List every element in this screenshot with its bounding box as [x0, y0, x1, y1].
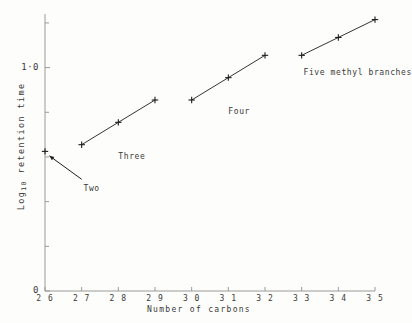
annotation-arrow-two	[49, 156, 81, 179]
x-tick-label-31: 3 1	[220, 294, 237, 303]
data-point-two-0	[42, 148, 48, 154]
data-point-three-1	[115, 119, 121, 125]
series-label-five-methyl-branches: Five methyl branches	[304, 68, 412, 77]
series-label-two: Two	[84, 184, 100, 193]
x-tick-label-28: 2 8	[110, 294, 127, 303]
x-tick-label-29: 2 9	[146, 294, 163, 303]
x-axis-label: Number of carbons	[0, 305, 398, 314]
x-tick-label-34: 3 4	[330, 294, 347, 303]
x-tick-label-35: 3 5	[366, 294, 383, 303]
data-point-five-methyl-branches-0	[298, 52, 304, 58]
y-axis-label: Log10 retention time	[16, 76, 29, 216]
series-label-four: Four	[228, 107, 250, 116]
data-point-four-0	[188, 97, 194, 103]
series-label-three: Three	[118, 152, 145, 161]
x-tick-label-33: 3 3	[293, 294, 310, 303]
data-point-five-methyl-branches-2	[372, 16, 378, 22]
x-tick-label-32: 3 2	[256, 294, 273, 303]
y-axis-label-base: Log	[16, 191, 26, 211]
data-point-five-methyl-branches-1	[335, 34, 341, 40]
data-point-four-1	[225, 74, 231, 80]
axes-group	[45, 14, 375, 291]
annotation-arrowhead-two	[49, 156, 54, 160]
x-tick-label-27: 2 7	[73, 294, 90, 303]
y-axis-label-subscript: 10	[20, 180, 28, 191]
series-group	[42, 16, 378, 179]
data-point-four-2	[262, 52, 268, 58]
data-point-three-2	[152, 97, 158, 103]
y-axis-label-rest: retention time	[16, 82, 26, 180]
y-tick-label-0: 0	[8, 285, 39, 295]
x-tick-label-30: 3 0	[183, 294, 200, 303]
data-point-three-0	[78, 141, 84, 147]
x-tick-label-26: 2 6	[36, 294, 53, 303]
y-tick-label-1: 1·0	[8, 62, 39, 72]
